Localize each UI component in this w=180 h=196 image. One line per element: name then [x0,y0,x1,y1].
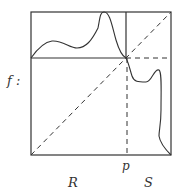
fixed-point-label: p [122,159,130,173]
region-s-label: S [144,175,153,190]
function-label: f : [6,73,20,88]
region-r-label: R [67,175,78,190]
fixed-point-diagram: f : p R S [0,0,180,196]
diagonal-dashed-line [31,12,171,155]
